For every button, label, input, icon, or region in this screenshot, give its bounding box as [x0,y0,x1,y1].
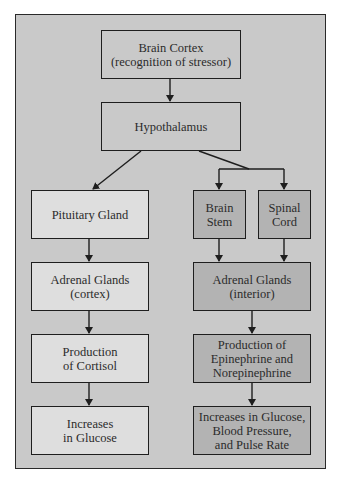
node-increases-glucose: Increases in Glucose [31,406,149,455]
node-increases-glucose-bp-pulse: Increases in Glucose, Blood Pressure, an… [193,406,311,455]
diagram-frame [15,14,326,469]
node-spinal-cord: Spinal Cord [258,190,311,239]
node-adrenal-cortex: Adrenal Glands (cortex) [31,262,149,311]
node-brain-stem: Brain Stem [193,190,246,239]
node-production-cortisol: Production of Cortisol [31,334,149,383]
node-production-epinephrine: Production of Epinephrine and Norepineph… [193,334,311,383]
node-hypothalamus: Hypothalamus [101,102,241,151]
node-pituitary-gland: Pituitary Gland [31,190,149,239]
node-brain-cortex: Brain Cortex (recognition of stressor) [101,30,241,79]
node-adrenal-interior: Adrenal Glands (interior) [193,262,311,311]
